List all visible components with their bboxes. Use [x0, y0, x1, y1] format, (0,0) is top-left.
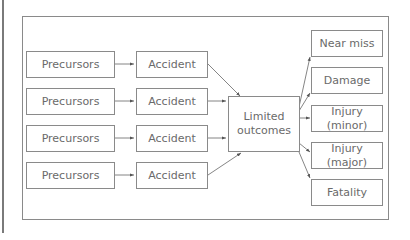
accident-label: Accident [148, 95, 196, 109]
accident-label: Accident [148, 132, 196, 146]
precursors-label: Precursors [42, 132, 100, 146]
accident-label: Accident [148, 169, 196, 183]
precursors-box-2: Precursors [26, 88, 115, 115]
precursors-box-4: Precursors [26, 162, 115, 189]
outcome-label: Injury (minor) [312, 105, 382, 133]
accident-box-3: Accident [136, 125, 208, 152]
accident-box-1: Accident [136, 51, 208, 78]
outcome-label: Injury (major) [312, 142, 382, 170]
outcome-label: Fatality [327, 186, 367, 200]
precursors-label: Precursors [42, 95, 100, 109]
precursors-label: Precursors [42, 58, 100, 72]
outcome-label: Near miss [320, 37, 375, 51]
precursors-box-1: Precursors [26, 51, 115, 78]
limited-outcomes-line2: outcomes [237, 124, 291, 138]
accident-box-2: Accident [136, 88, 208, 115]
limited-outcomes-box: Limited outcomes [228, 96, 300, 152]
accident-box-4: Accident [136, 162, 208, 189]
outcome-fatality: Fatality [311, 179, 383, 206]
outcome-label: Damage [324, 74, 370, 88]
outcome-damage: Damage [311, 67, 383, 94]
outcome-injury-major: Injury (major) [311, 142, 383, 169]
outcome-near-miss: Near miss [311, 30, 383, 57]
limited-outcomes-line1: Limited [243, 110, 284, 124]
accident-label: Accident [148, 58, 196, 72]
precursors-label: Precursors [42, 169, 100, 183]
outcome-injury-minor: Injury (minor) [311, 105, 383, 132]
precursors-box-3: Precursors [26, 125, 115, 152]
